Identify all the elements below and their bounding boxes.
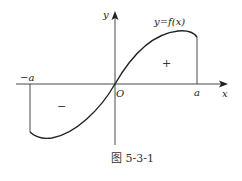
y-axis-label: y: [102, 9, 109, 20]
minus-sign: −: [57, 100, 66, 113]
origin-label: O: [116, 88, 124, 99]
odd-function-diagram: y x O −a a y=f(x) + − 图 5-3-1: [0, 0, 242, 181]
neg-a-label: −a: [20, 72, 34, 83]
x-axis-label: x: [222, 88, 228, 99]
figure-caption: 图 5-3-1: [111, 152, 154, 165]
plus-sign: +: [162, 57, 171, 70]
function-label: y=f(x): [153, 16, 185, 27]
pos-a-label: a: [194, 87, 200, 98]
function-curve: [30, 31, 197, 139]
